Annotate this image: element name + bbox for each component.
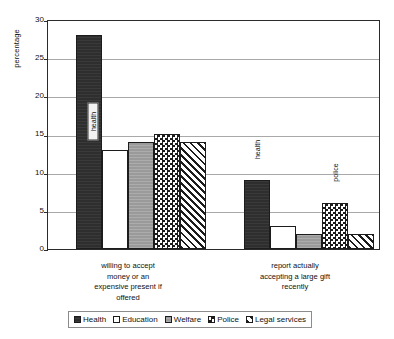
bar-group0-health bbox=[76, 35, 102, 249]
category-label-group1-line0: report actually bbox=[240, 261, 350, 272]
category-label-group0: willing to accept money or an expensive … bbox=[73, 261, 183, 303]
y-axis-title: percentage bbox=[12, 11, 21, 87]
legend-swatch-education-icon bbox=[113, 316, 120, 323]
bar-chart: percentage 30 25 20 15 10 5 0 health bbox=[0, 0, 394, 339]
y-tick-10: 10 bbox=[22, 169, 44, 177]
y-tick-mark-15 bbox=[44, 136, 48, 137]
legend-label-health: Health bbox=[83, 316, 106, 324]
category-label-group0-line2: expensive present if bbox=[73, 282, 183, 293]
annotation-group1-police: police bbox=[332, 157, 339, 189]
y-tick-mark-0 bbox=[44, 250, 48, 251]
legend-label-legal-services: Legal services bbox=[255, 316, 306, 324]
bar-group1-legal bbox=[348, 234, 374, 249]
bar-group1-education bbox=[270, 226, 296, 249]
category-label-group0-line1: money or an bbox=[73, 272, 183, 283]
y-tick-mark-5 bbox=[44, 212, 48, 213]
y-tick-30: 30 bbox=[22, 16, 44, 24]
legend-item-police: Police bbox=[208, 316, 239, 324]
y-tick-0: 0 bbox=[22, 245, 44, 253]
category-label-group0-line3: offered bbox=[73, 293, 183, 304]
y-tick-20: 20 bbox=[22, 92, 44, 100]
chart-legend: Health Education Welfare Police Legal se… bbox=[68, 311, 312, 328]
y-tick-mark-30 bbox=[44, 21, 48, 22]
y-tick-25: 25 bbox=[22, 54, 44, 62]
y-tick-mark-25 bbox=[44, 59, 48, 60]
y-tick-mark-10 bbox=[44, 174, 48, 175]
legend-item-welfare: Welfare bbox=[165, 316, 201, 324]
plot-area: health health police bbox=[47, 20, 380, 250]
annotation-group0-health: health bbox=[88, 103, 99, 141]
bar-group1-police bbox=[322, 203, 348, 249]
legend-label-police: Police bbox=[217, 316, 239, 324]
legend-swatch-health-icon bbox=[74, 316, 81, 323]
legend-item-legal-services: Legal services bbox=[246, 316, 306, 324]
annotation-group1-health: health bbox=[254, 134, 261, 166]
bar-group1-welfare bbox=[296, 234, 322, 249]
y-tick-5: 5 bbox=[22, 207, 44, 215]
bar-group0-education bbox=[102, 150, 128, 249]
legend-swatch-legal-services-icon bbox=[246, 316, 253, 323]
category-label-group1: report actually accepting a large gift r… bbox=[240, 261, 350, 293]
y-tick-15: 15 bbox=[22, 130, 44, 138]
category-label-group1-line1: accepting a large gift bbox=[240, 272, 350, 283]
category-label-group1-line2: recently bbox=[240, 282, 350, 293]
bar-group0-police bbox=[154, 134, 180, 249]
bar-group0-legal bbox=[180, 142, 206, 249]
legend-item-health: Health bbox=[74, 316, 106, 324]
bar-group0-welfare bbox=[128, 142, 154, 249]
y-tick-mark-20 bbox=[44, 97, 48, 98]
category-label-group0-line0: willing to accept bbox=[73, 261, 183, 272]
legend-swatch-welfare-icon bbox=[165, 316, 172, 323]
legend-swatch-police-icon bbox=[208, 316, 215, 323]
legend-label-welfare: Welfare bbox=[174, 316, 201, 324]
bar-group1-health bbox=[244, 180, 270, 249]
legend-label-education: Education bbox=[122, 316, 158, 324]
legend-item-education: Education bbox=[113, 316, 158, 324]
